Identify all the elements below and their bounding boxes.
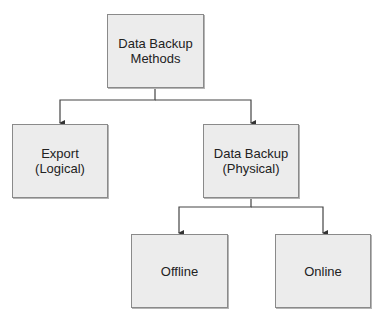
edge-root-physical bbox=[155, 100, 251, 123]
node-label-line: Methods bbox=[118, 51, 192, 66]
node-label-line: Data Backup bbox=[118, 36, 192, 51]
edge-physical-online bbox=[251, 207, 323, 233]
node-label-line: Data Backup bbox=[214, 146, 288, 161]
node-data-backup-methods: Data Backup Methods bbox=[107, 14, 204, 88]
node-label-line: Offline bbox=[161, 264, 198, 279]
node-online: Online bbox=[275, 234, 371, 308]
node-data-backup-physical: Data Backup (Physical) bbox=[203, 124, 299, 198]
node-label-line: (Physical) bbox=[214, 161, 288, 176]
node-label-line: Online bbox=[304, 264, 342, 279]
edge-physical-offline bbox=[179, 198, 251, 233]
node-label-line: (Logical) bbox=[35, 161, 85, 176]
node-offline: Offline bbox=[131, 234, 228, 308]
edge-root-export bbox=[60, 88, 155, 123]
node-label-line: Export bbox=[35, 146, 85, 161]
node-export-logical: Export (Logical) bbox=[12, 124, 108, 198]
